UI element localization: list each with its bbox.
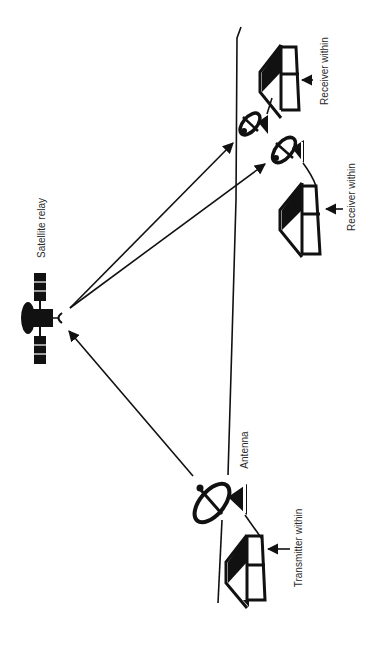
transmitter-antenna-icon (188, 478, 247, 529)
satellite-icon (21, 273, 62, 364)
antenna-label: Antenna (239, 431, 250, 469)
receiver-antenna-2-icon (268, 133, 304, 166)
satellite-broadcast-diagram: Satellite relay Antenna Transmitter with… (0, 0, 375, 650)
receiver-2-label: Receiver within (346, 163, 357, 231)
downlink-arrow-1 (70, 143, 233, 308)
uplink-arrow (69, 331, 193, 476)
receiver-house-2-icon (280, 163, 320, 257)
transmitter-label: Transmitter within (293, 509, 304, 588)
receiver-house-1-icon (260, 45, 299, 118)
transmitter-house-icon (226, 515, 265, 608)
receiver-1-label: Receiver within (319, 37, 330, 105)
satellite-label: Satellite relay (36, 198, 47, 258)
receiver-antenna-1-icon (236, 110, 268, 139)
ground-line (218, 27, 241, 603)
